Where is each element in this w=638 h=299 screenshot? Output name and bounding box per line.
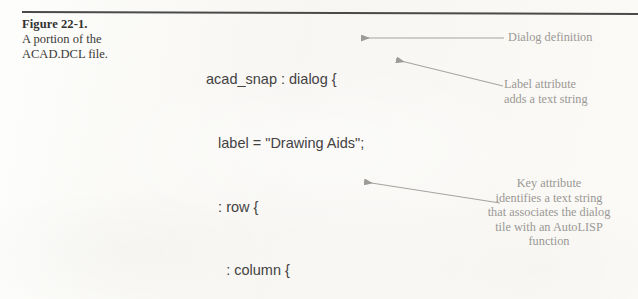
figure-caption: Figure 22-1. A portion of the ACAD.DCL f… xyxy=(22,17,172,61)
dcl-code-listing: acad_snap : dialog { label = "Drawing Ai… xyxy=(206,27,376,299)
code-line: acad_snap : dialog { xyxy=(206,69,376,90)
annotation-label-attribute: Label attribute adds a text string xyxy=(504,77,632,106)
annotation-dialog-definition: Dialog definition xyxy=(508,30,632,45)
code-line: label = "Drawing Aids"; xyxy=(206,133,376,154)
header-divider-rule xyxy=(22,11,638,15)
figure-page: Figure 22-1. A portion of the ACAD.DCL f… xyxy=(0,0,638,299)
code-line: : row { xyxy=(206,197,376,218)
figure-caption-title: Figure 22-1. xyxy=(22,17,172,32)
figure-caption-line-1: A portion of the xyxy=(22,32,172,47)
code-line: : column { xyxy=(206,260,376,281)
annotation-key-attribute: Key attribute identifies a text string t… xyxy=(462,176,636,249)
figure-caption-line-2: ACAD.DCL file. xyxy=(22,47,172,62)
leader-line-label-attribute xyxy=(397,60,503,86)
